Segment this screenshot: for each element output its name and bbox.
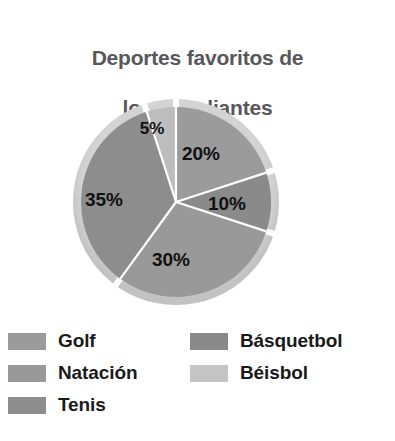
legend-label-natacion: Natación [58,362,137,384]
legend: Golf Natación Tenis Básquetbol Béisbol [0,325,395,441]
legend-item-natacion[interactable]: Natación [8,357,137,389]
slice-label-natacion: 30% [152,249,190,270]
legend-label-beisbol: Béisbol [240,362,308,384]
legend-item-basquetbol[interactable]: Básquetbol [190,325,342,357]
legend-swatch-beisbol [190,365,228,382]
legend-item-beisbol[interactable]: Béisbol [190,357,342,389]
legend-column-left: Golf Natación Tenis [8,325,137,421]
legend-item-golf[interactable]: Golf [8,325,137,357]
legend-column-right: Básquetbol Béisbol [190,325,342,389]
pie-chart: 20% 10% 30% 35% 5% [47,98,305,306]
legend-label-tenis: Tenis [58,394,106,416]
legend-swatch-basquetbol [190,333,228,350]
legend-item-tenis[interactable]: Tenis [8,389,137,421]
title-line-1: Deportes favoritos de [92,46,304,69]
legend-swatch-tenis [8,397,46,414]
legend-label-basquetbol: Básquetbol [240,330,342,352]
slice-label-beisbol: 5% [140,119,165,138]
slice-label-golf: 20% [182,143,220,164]
legend-swatch-golf [8,333,46,350]
pie-chart-svg: 20% 10% 30% 35% 5% [47,98,305,306]
legend-label-golf: Golf [58,330,96,352]
slice-label-basquetbol: 10% [208,193,246,214]
legend-swatch-natacion [8,365,46,382]
slice-label-tenis: 35% [85,189,123,210]
